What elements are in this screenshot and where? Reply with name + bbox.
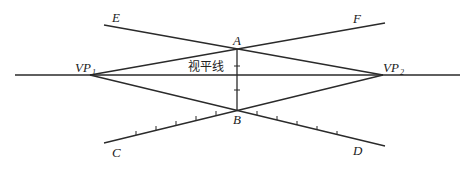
label-vp2-sub: 2 xyxy=(400,68,404,77)
label-d: D xyxy=(352,143,363,158)
label-c: C xyxy=(112,145,121,160)
label-f: F xyxy=(352,11,362,26)
line-e-vp2 xyxy=(104,25,383,75)
label-vp1-sub: 1 xyxy=(92,68,96,77)
label-vp2: VP xyxy=(383,60,399,75)
label-a: A xyxy=(232,33,241,48)
perspective-diagram: E F A B C D VP 1 VP 2 视平线 xyxy=(0,0,469,170)
horizon-label: 视平线 xyxy=(188,59,224,74)
ticks-bc xyxy=(136,111,216,135)
label-vp1: VP xyxy=(75,60,91,75)
label-e: E xyxy=(111,10,120,25)
line-c-vp2 xyxy=(104,75,383,143)
label-b: B xyxy=(233,112,241,127)
